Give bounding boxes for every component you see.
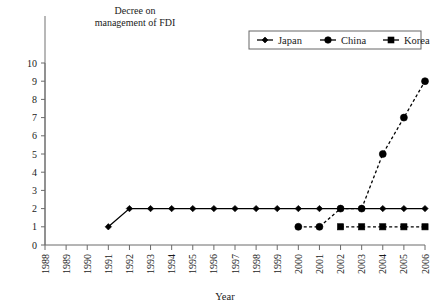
legend-label: Japan	[278, 35, 303, 46]
x-tick-label: 2000	[293, 254, 304, 274]
x-tick-label: 1990	[82, 254, 93, 274]
y-tick-label: 2	[32, 203, 37, 214]
y-tick-label: 5	[32, 149, 37, 160]
data-point-marker	[147, 205, 153, 211]
x-tick-label: 1995	[187, 254, 198, 274]
chart-legend[interactable]: JapanChinaKorea	[249, 31, 430, 49]
data-point-marker	[388, 37, 394, 43]
data-point-marker	[274, 205, 280, 211]
x-tick-label: 1994	[166, 254, 177, 274]
data-point-marker	[380, 224, 386, 230]
x-tick-label: 1992	[124, 254, 135, 274]
annotation-line1: Decree on	[115, 5, 156, 16]
x-tick-label: 2001	[314, 254, 325, 274]
x-tick-label: 2003	[356, 254, 367, 274]
x-tick-label: 1998	[251, 254, 262, 274]
data-point-marker	[295, 205, 301, 211]
x-tick-label: 1999	[272, 254, 283, 274]
x-axis: 1988198919901991199219931994199519961997…	[40, 245, 431, 274]
annotation-line2: management of FDI	[95, 17, 176, 28]
x-tick-label: 1989	[61, 254, 72, 274]
y-tick-label: 8	[32, 94, 37, 105]
x-tick-label: 2005	[398, 254, 409, 274]
y-tick-label: 9	[32, 76, 37, 87]
y-tick-label: 6	[32, 130, 37, 141]
data-point-marker	[316, 205, 322, 211]
series-line	[108, 209, 425, 227]
data-point-marker	[400, 114, 407, 121]
x-tick-label: 1993	[145, 254, 156, 274]
data-point-marker	[253, 205, 259, 211]
chart-container: Decree on management of FDI 012345678910…	[0, 0, 437, 308]
x-tick-label: 1991	[103, 254, 114, 274]
data-point-marker	[358, 205, 365, 212]
x-tick-label: 1996	[208, 254, 219, 274]
data-point-marker	[211, 205, 217, 211]
data-point-marker	[422, 78, 429, 85]
y-tick-label: 3	[32, 185, 37, 196]
data-point-marker	[379, 151, 386, 158]
x-tick-label: 2002	[335, 254, 346, 274]
data-series-group	[105, 78, 428, 231]
data-point-marker	[190, 205, 196, 211]
y-tick-label: 0	[32, 240, 37, 251]
data-point-marker	[401, 205, 407, 211]
x-tick-label: 1988	[40, 254, 51, 274]
data-point-marker	[325, 37, 332, 44]
y-tick-label: 7	[32, 112, 37, 123]
data-point-marker	[380, 205, 386, 211]
data-point-marker	[401, 224, 407, 230]
data-point-marker	[295, 223, 302, 230]
series-china	[295, 78, 429, 231]
data-point-marker	[337, 205, 344, 212]
line-chart: Decree on management of FDI 012345678910…	[0, 0, 437, 308]
data-point-marker	[337, 224, 343, 230]
data-point-marker	[422, 224, 428, 230]
y-tick-label: 1	[32, 221, 37, 232]
legend-label: China	[341, 35, 366, 46]
y-tick-label: 10	[27, 58, 37, 69]
x-axis-title: Year	[215, 291, 235, 302]
series-korea	[337, 224, 428, 230]
y-axis: 012345678910	[27, 58, 45, 251]
data-point-marker	[232, 205, 238, 211]
x-tick-label: 2004	[377, 254, 388, 274]
data-point-marker	[316, 223, 323, 230]
x-tick-label: 2006	[420, 254, 431, 274]
x-tick-label: 1997	[230, 254, 241, 274]
annotation-label-group: Decree on management of FDI	[95, 5, 176, 28]
y-tick-label: 4	[32, 167, 37, 178]
legend-label: Korea	[404, 35, 430, 46]
data-point-marker	[168, 205, 174, 211]
data-point-marker	[422, 205, 428, 211]
data-point-marker	[359, 224, 365, 230]
